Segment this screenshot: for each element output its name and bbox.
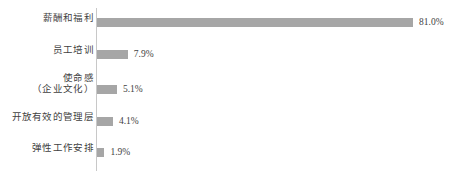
category-label-line1: 员工培训 [53, 45, 94, 55]
value-label: 81.0% [419, 17, 444, 27]
category-label-line2: （企业文化） [0, 84, 94, 95]
category-label-line1: 弹性工作安排 [32, 143, 94, 153]
category-label: 弹性工作安排 [0, 143, 94, 154]
value-label: 5.1% [123, 84, 143, 94]
bar [97, 148, 104, 157]
category-label: 使命感 （企业文化） [0, 73, 94, 95]
bar [97, 85, 117, 94]
category-label: 员工培训 [0, 45, 94, 56]
category-label: 薪酬和福利 [0, 13, 94, 24]
bar [97, 117, 113, 126]
bar [97, 18, 413, 27]
category-label-line1: 开放有效的管理层 [12, 112, 94, 122]
value-label: 4.1% [119, 116, 139, 126]
bar-chart: 薪酬和福利 81.0% 员工培训 7.9% 使命感 （企业文化） 5.1% 开放… [0, 0, 454, 177]
category-label: 开放有效的管理层 [0, 112, 94, 123]
bar [97, 50, 128, 59]
value-label: 7.9% [134, 49, 154, 59]
category-label-line1: 薪酬和福利 [43, 13, 95, 23]
value-label: 1.9% [110, 147, 130, 157]
category-label-line1: 使命感 [63, 73, 94, 83]
